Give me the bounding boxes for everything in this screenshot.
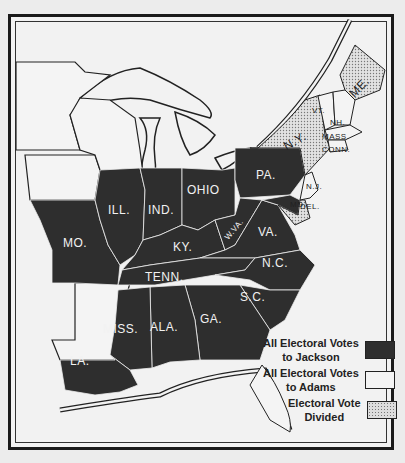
legend-jackson-line1: All Electoral Votes — [263, 336, 359, 350]
label-miss: MISS. — [103, 322, 138, 336]
label-nj: N.J. — [306, 182, 322, 191]
label-ill: ILL. — [108, 203, 130, 217]
label-conn: CONN. — [322, 145, 350, 154]
legend-divided-line2: Divided — [288, 410, 361, 424]
legend-adams: All Electoral Votesto Adams — [263, 366, 395, 394]
label-vt: VT. — [312, 106, 325, 115]
label-ga: GA. — [200, 312, 222, 326]
label-mass: MASS. — [322, 132, 349, 141]
legend-jackson-line2: to Jackson — [263, 350, 359, 364]
label-nh: NH. — [330, 118, 345, 127]
label-pa: PA. — [256, 168, 276, 182]
iowa — [25, 155, 100, 200]
label-ind: IND. — [148, 203, 174, 217]
swatch-jackson — [365, 341, 395, 359]
legend-divided: Electoral VoteDivided — [288, 396, 397, 424]
label-ala: ALA. — [150, 320, 178, 334]
legend-divided-line1: Electoral Vote — [288, 396, 361, 410]
swatch-adams — [365, 371, 395, 389]
label-ohio: OHIO — [187, 183, 220, 197]
label-va: VA. — [258, 225, 278, 239]
label-la: LA. — [70, 354, 90, 368]
label-nc: N.C. — [262, 256, 288, 270]
swatch-divided — [367, 401, 397, 419]
label-tenn: TENN. — [145, 270, 184, 284]
label-sc: S.C. — [240, 290, 265, 304]
legend-adams-line2: to Adams — [263, 380, 359, 394]
label-mo: MO. — [63, 236, 87, 250]
legend-adams-line1: All Electoral Votes — [263, 366, 359, 380]
legend-jackson: All Electoral Votesto Jackson — [263, 336, 395, 364]
label-del: DEL. — [300, 202, 320, 211]
label-ky: KY. — [173, 240, 192, 254]
